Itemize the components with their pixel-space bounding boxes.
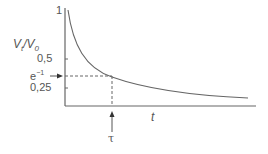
x-axis-label: t bbox=[151, 111, 154, 123]
e-inverse-arrow-icon bbox=[57, 74, 63, 79]
tau-arrow-icon bbox=[110, 111, 115, 117]
decay-curve bbox=[68, 10, 248, 98]
y-tick-label-0.25: 0,25 bbox=[30, 82, 51, 93]
tau-label: τ bbox=[108, 133, 114, 144]
y-tick-label-0.5: 0,5 bbox=[37, 53, 52, 64]
y-tick-label-1: 1 bbox=[56, 5, 62, 16]
y-axis-label: Vt/V0 bbox=[13, 38, 39, 53]
y-tick-label-e-inverse: e−1 bbox=[30, 69, 44, 82]
